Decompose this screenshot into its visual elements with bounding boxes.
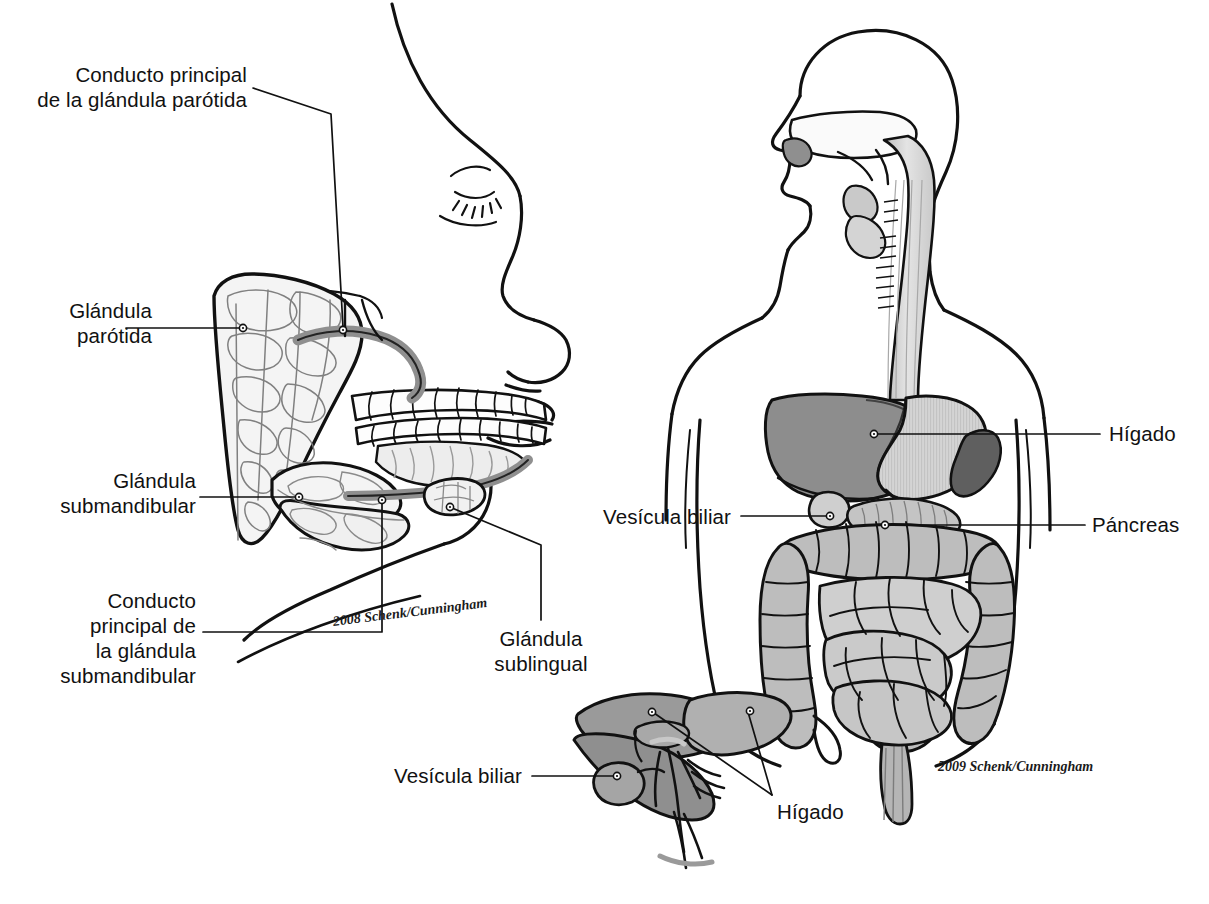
label-glandula-parotida: Glándulaparótida — [0, 298, 152, 348]
gallbladder-torso — [809, 492, 849, 527]
label-line: Páncreas — [1092, 512, 1209, 537]
leader-dot-vesicula-torso-center — [829, 515, 831, 517]
label-line: Hígado — [1109, 421, 1209, 446]
liver-detail-panel — [574, 693, 791, 868]
label-vesicula-torso: Vesícula biliar — [0, 504, 731, 529]
label-line: Glándula — [0, 298, 152, 323]
gallbladder-detail — [594, 763, 645, 805]
leader-dot-glandula-parotida-center — [242, 327, 244, 329]
label-line: parótida — [0, 323, 152, 348]
label-line: Vesícula biliar — [0, 504, 731, 529]
label-line: la glándula — [0, 638, 196, 663]
label-line: Vesícula biliar — [0, 763, 522, 788]
label-line: principal de — [0, 613, 196, 638]
label-vesicula-liver: Vesícula biliar — [0, 763, 522, 788]
label-line: submandibular — [0, 663, 196, 688]
label-line: sublingual — [361, 651, 721, 676]
leader-dot-higado-liver-b-center — [749, 710, 751, 712]
label-higado-torso: Hígado — [1109, 421, 1209, 446]
leader-dot-pancreas-torso-center — [884, 524, 886, 526]
leader-dot-conducto-submandibular-center — [381, 499, 383, 501]
label-line: de la glándula parótida — [0, 87, 247, 112]
label-higado-liver: Hígado — [777, 799, 1209, 824]
esophagus — [843, 136, 934, 400]
leader-dot-higado-liver-center — [651, 711, 653, 713]
sig-torso: 2009 Schenk/Cunningham — [938, 759, 1093, 775]
head-profile-panel — [214, 4, 569, 662]
label-glandula-sublingual: Glándulasublingual — [361, 626, 721, 676]
leader-dot-conducto-parotida-center — [342, 329, 344, 331]
leader-dot-higado-torso-center — [873, 433, 875, 435]
label-line: Conducto — [0, 588, 196, 613]
label-line: Glándula — [0, 468, 196, 493]
label-pancreas-torso: Páncreas — [1092, 512, 1209, 537]
label-line: Glándula — [361, 626, 721, 651]
anatomy-figure-page: Conducto principalde la glándula parótid… — [0, 0, 1209, 904]
leader-dot-glandula-submandibular-center — [298, 496, 300, 498]
label-line: Hígado — [777, 799, 1209, 824]
eye-detail — [440, 167, 501, 226]
label-conducto-parotida: Conducto principalde la glándula parótid… — [0, 62, 247, 112]
upper-teeth — [352, 388, 546, 420]
label-conducto-submandibular: Conductoprincipal dela glándulasubmandib… — [0, 588, 196, 688]
leader-dot-vesicula-liver-center — [616, 775, 618, 777]
label-line: Conducto principal — [0, 62, 247, 87]
